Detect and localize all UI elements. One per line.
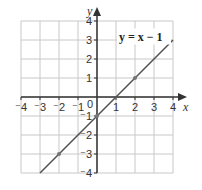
y-tick-label: 2 [86,53,92,65]
y-tick-label: 4 [86,15,92,27]
x-tick-label: ⁻3 [34,101,46,113]
equation-label: y = x − 1 [117,29,171,45]
x-tick-label: ⁻4 [15,101,27,113]
x-tick-label: ⁻2 [53,101,65,113]
y-tick-label: 3 [86,34,92,46]
x-tick-label: 2 [132,101,138,113]
y-tick-label: ⁻1 [80,110,92,122]
x-tick-label: 1 [113,101,119,113]
x-tick-label: 3 [151,101,157,113]
y-axis-arrow-icon [93,7,101,16]
y-tick-label: 1 [86,72,92,84]
y-tick-label: ⁻3 [80,148,92,160]
line-chart: xy ⁻4⁻3⁻2⁻112344321⁻1⁻2⁻3⁻40 y = x − 1 [0,0,202,190]
x-tick-label: 4 [170,101,176,113]
x-axis-label: x [182,100,189,114]
data-point [95,114,99,118]
data-point [57,152,61,156]
equation-text: y = x − 1 [119,30,163,44]
origin-label: 0 [87,98,93,110]
data-point [133,76,137,80]
y-tick-label: ⁻4 [80,167,92,179]
